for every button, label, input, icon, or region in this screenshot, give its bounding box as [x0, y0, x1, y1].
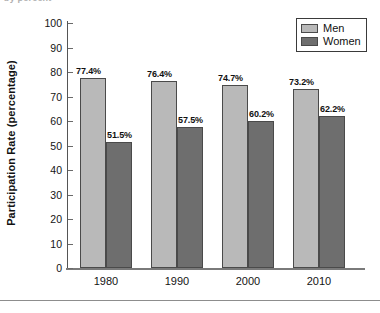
bar-value-label: 73.2% — [289, 77, 314, 87]
bar-men-2000[interactable] — [222, 85, 248, 268]
y-axis-title: Participation Rate (percentage) — [0, 0, 22, 285]
x-axis-line — [66, 268, 365, 270]
bar-women-2010[interactable] — [319, 116, 345, 268]
y-axis-tick-label: 30 — [28, 190, 62, 200]
y-axis-tick-label: 80 — [28, 67, 62, 77]
legend-item-men[interactable]: Men — [301, 22, 361, 35]
y-axis-tick-label: 10 — [28, 239, 62, 249]
x-axis-tick-label: 1990 — [147, 275, 207, 287]
bar-value-label: 60.2% — [249, 109, 274, 119]
x-axis-tick-label: 2000 — [218, 275, 278, 287]
y-axis-tick-label: 100 — [28, 18, 62, 28]
bar-men-2010[interactable] — [293, 89, 319, 268]
y-axis-tick-label: 50 — [28, 141, 62, 151]
bar-men-1980[interactable] — [80, 78, 106, 268]
y-axis-tick-label: 60 — [28, 116, 62, 126]
legend-swatch-women-icon — [301, 37, 318, 46]
bar-value-label: 76.4% — [147, 69, 172, 79]
bottom-divider — [0, 300, 380, 301]
y-axis-tick-mark — [68, 268, 73, 269]
x-axis-tick-label: 2010 — [289, 275, 349, 287]
bar-value-label: 57.5% — [178, 115, 203, 125]
bar-value-label: 74.7% — [218, 73, 243, 83]
plot-area: 77.4%51.5%76.4%57.5%74.7%60.2%73.2%62.2% — [67, 23, 364, 268]
y-axis-tick-label: 90 — [28, 43, 62, 53]
bar-women-1990[interactable] — [177, 127, 203, 268]
chart-figure: by percent Participation Rate (percentag… — [0, 0, 380, 313]
legend-swatch-men-icon — [301, 24, 318, 33]
bar-value-label: 77.4% — [76, 66, 101, 76]
legend-label-women: Women — [323, 36, 361, 47]
y-axis-title-label: Participation Rate (percentage) — [5, 60, 17, 226]
x-axis-tick-label: 1980 — [76, 275, 136, 287]
y-axis-tick-label: 0 — [28, 263, 62, 273]
legend-item-women[interactable]: Women — [301, 35, 361, 48]
bar-women-1980[interactable] — [106, 142, 132, 268]
legend-label-men: Men — [323, 23, 344, 34]
y-axis-tick-label: 20 — [28, 214, 62, 224]
bar-men-1990[interactable] — [151, 81, 177, 268]
y-axis-tick-label: 40 — [28, 165, 62, 175]
chart-legend: Men Women — [296, 18, 367, 52]
bar-value-label: 51.5% — [107, 130, 132, 140]
bar-women-2000[interactable] — [248, 121, 274, 268]
y-axis-tick-label: 70 — [28, 92, 62, 102]
bar-value-label: 62.2% — [320, 104, 345, 114]
